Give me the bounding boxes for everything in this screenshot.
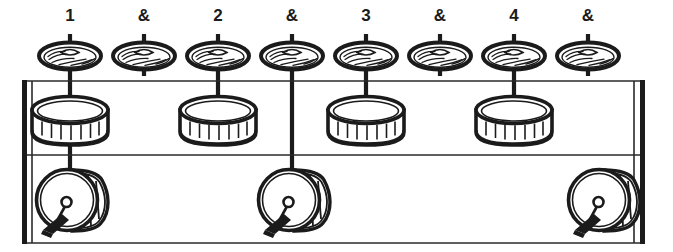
beat-label-3: 3 bbox=[361, 6, 370, 25]
cymbal-icon-beat-3-and[interactable] bbox=[409, 34, 471, 76]
cymbal-icon-beat-2-and[interactable] bbox=[261, 34, 323, 76]
beat-label-3-and: & bbox=[434, 6, 446, 25]
snare-icon-beat-4[interactable] bbox=[476, 97, 552, 146]
beat-label-1-and: & bbox=[138, 6, 150, 25]
beat-label-4: 4 bbox=[509, 6, 519, 25]
beat-label-2-and: & bbox=[286, 6, 298, 25]
right-barline-thick bbox=[640, 80, 645, 244]
beat-label-2: 2 bbox=[213, 6, 222, 25]
bass-drum-icon-beat-1[interactable] bbox=[37, 170, 109, 239]
beat-label-1: 1 bbox=[65, 6, 74, 25]
bass-drum-icon-beat-2-and[interactable] bbox=[259, 170, 331, 239]
drum-notation-figure: 1 & 2 & 3 & 4 & bbox=[0, 0, 673, 252]
cymbal-icon-beat-2[interactable] bbox=[187, 34, 249, 76]
cymbal-icon-beat-4[interactable] bbox=[483, 34, 545, 76]
notation-canvas: 1 & 2 & 3 & 4 & bbox=[0, 0, 673, 252]
bass-drum-icon-beat-4-and[interactable] bbox=[569, 170, 641, 239]
cymbal-icon-beat-1-and[interactable] bbox=[113, 34, 175, 76]
left-barline-thick bbox=[22, 80, 27, 244]
snare-icon-beat-2[interactable] bbox=[180, 97, 256, 146]
cymbal-row bbox=[39, 34, 619, 76]
bass-row bbox=[37, 170, 641, 239]
beat-label-row: 1 & 2 & 3 & 4 & bbox=[65, 6, 594, 25]
snare-icon-beat-1[interactable] bbox=[32, 97, 108, 146]
note-stem-group bbox=[70, 76, 514, 172]
beat-label-4-and: & bbox=[582, 6, 594, 25]
cymbal-icon-beat-4-and[interactable] bbox=[557, 34, 619, 76]
snare-icon-beat-3[interactable] bbox=[328, 97, 404, 146]
cymbal-icon-beat-3[interactable] bbox=[335, 34, 397, 76]
cymbal-icon-beat-1[interactable] bbox=[39, 34, 101, 76]
